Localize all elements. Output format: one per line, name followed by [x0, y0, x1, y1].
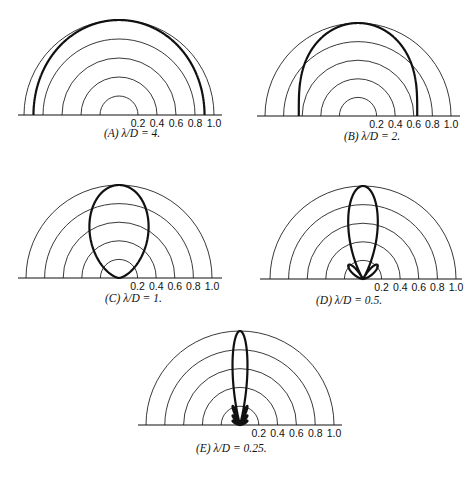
radial-tick-label: 0.8	[430, 281, 445, 293]
radiation-pattern-curve	[233, 331, 248, 425]
radiation-pattern-curve	[299, 23, 417, 116]
polar-plot-e: 0.20.40.60.81.0(E) λ/D = 0.25.	[138, 331, 342, 455]
radial-tick-label: 0.8	[308, 427, 323, 439]
radial-tick-label: 0.6	[289, 427, 304, 439]
radial-grid-circle	[62, 58, 176, 115]
radial-tick-label: 0.8	[425, 118, 440, 130]
radiation-pattern-curve	[348, 186, 378, 279]
radial-tick-label: 0.6	[411, 281, 426, 293]
polar-plot-d: 0.20.40.60.81.0(D) λ/D = 0.5.	[260, 186, 463, 307]
radial-tick-label: 1.0	[449, 281, 464, 293]
radial-grid-circle	[339, 97, 376, 116]
radial-tick-label: 0.6	[167, 280, 182, 292]
radial-grid-circle	[265, 23, 451, 116]
radial-tick-label: 1.0	[444, 118, 459, 130]
radial-grid-circle	[270, 186, 456, 279]
polar-plot-a: 0.20.40.60.81.0(A) λ/D = 4.	[18, 20, 222, 140]
radial-tick-label: 0.4	[149, 280, 164, 292]
radial-tick-label: 1.0	[327, 427, 342, 439]
radial-tick-label: 0.4	[270, 427, 285, 439]
radial-tick-label: 0.2	[374, 281, 389, 293]
radial-grid-circle	[302, 60, 414, 116]
panel-caption: (E) λ/D = 0.25.	[196, 442, 267, 455]
radial-tick-label: 0.2	[130, 280, 145, 292]
radial-grid-circle	[307, 223, 419, 279]
radial-tick-label: 0.2	[369, 118, 384, 130]
radiation-pattern-curve	[89, 185, 148, 278]
polar-plot-c: 0.20.40.60.81.0(C) λ/D = 1.	[18, 185, 222, 305]
panel-caption: (C) λ/D = 1.	[105, 292, 162, 305]
radial-tick-label: 0.4	[388, 118, 403, 130]
radial-tick-label: 0.6	[169, 117, 184, 129]
radial-tick-label: 0.8	[186, 280, 201, 292]
radiation-pattern-figure: 0.20.40.60.81.0(A) λ/D = 4.0.20.40.60.81…	[0, 0, 475, 479]
radial-tick-label: 0.6	[406, 118, 421, 130]
radial-tick-label: 0.8	[188, 117, 203, 129]
radial-grid-circle	[24, 20, 214, 115]
panel-caption: (A) λ/D = 4.	[104, 127, 160, 140]
radial-grid-circle	[63, 222, 175, 278]
radial-grid-circle	[184, 369, 297, 425]
radial-tick-label: 1.0	[207, 117, 222, 129]
polar-plot-b: 0.20.40.60.81.0(B) λ/D = 2.	[257, 23, 460, 143]
radial-grid-circle	[146, 331, 334, 425]
radial-tick-label: 0.4	[393, 281, 408, 293]
panel-caption: (B) λ/D = 2.	[344, 130, 400, 143]
radial-grid-circle	[26, 185, 212, 278]
radial-grid-circle	[100, 96, 138, 115]
radial-tick-label: 0.2	[251, 427, 266, 439]
radial-tick-label: 1.0	[205, 280, 220, 292]
panel-caption: (D) λ/D = 0.5.	[316, 294, 382, 307]
